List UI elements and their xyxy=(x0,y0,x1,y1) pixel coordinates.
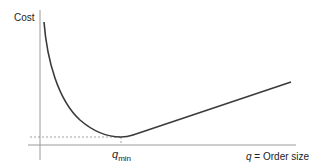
qmin-sub: min xyxy=(118,154,131,163)
chart-plot xyxy=(0,0,331,168)
cost-vs-order-size-chart: Cost qmin q = Order size xyxy=(0,0,331,168)
cost-curve xyxy=(44,22,291,137)
qmin-label: qmin xyxy=(112,148,131,163)
x-text: = Order size xyxy=(252,151,310,162)
x-axis-label: q = Order size xyxy=(246,151,309,162)
y-axis-label: Cost xyxy=(14,12,35,23)
